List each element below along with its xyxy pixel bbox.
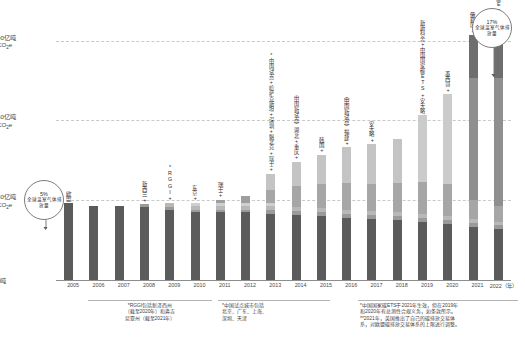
stacked-bar <box>418 115 427 280</box>
callout-right: 17% 全球温室气体排放量 <box>472 8 516 48</box>
bar-segment <box>317 216 326 280</box>
x-tick-label: 2021 <box>465 282 491 288</box>
bar-column <box>241 14 250 280</box>
bar-segment <box>317 184 326 208</box>
bar-segment <box>393 183 402 212</box>
bar-annotation: 东京+ <box>192 185 199 202</box>
bar-segment <box>443 94 452 184</box>
bar-column: *RGGI+ <box>165 14 174 280</box>
bar-segment <box>469 227 478 280</box>
footnote-rule-2 <box>218 300 330 301</box>
bar-segment <box>418 222 427 281</box>
bar-segment <box>393 139 402 183</box>
callout-right-text: 全球温室气体排放量 <box>473 25 511 36</box>
bar-segment <box>241 196 250 203</box>
bar-segment <box>191 212 200 280</box>
bar-annotation: 新西兰+ <box>141 181 148 203</box>
stacked-bar <box>140 204 149 280</box>
bar-column <box>115 14 124 280</box>
bar-segment <box>266 190 275 203</box>
bar-column: 俄勒冈+ <box>469 14 478 280</box>
bar-segment <box>292 162 301 186</box>
x-tick-label: 2020 <box>439 282 465 288</box>
bar-segment <box>216 212 225 280</box>
stacked-bar <box>266 174 275 280</box>
footnote-national-ets-line-4: 系，对欧盟碳排放交易体系的上限进行调整。 <box>360 322 522 328</box>
bar-segment <box>494 78 503 206</box>
bar-segment <box>469 78 478 200</box>
stacked-bar <box>89 206 98 280</box>
bar-annotation: （中国新试点）福建+ <box>343 93 350 146</box>
x-tick-label: 2014 <box>288 282 314 288</box>
stacked-bar <box>115 206 124 280</box>
bar-segment <box>469 200 478 219</box>
y-tick-label-0: 0吨 <box>0 277 49 284</box>
x-tick-label: 2011 <box>212 282 238 288</box>
bar-column: 瑞士+ <box>216 14 225 280</box>
callout-right-bubble: 17% 全球温室气体排放量 <box>472 8 512 48</box>
footnote-china-pilot-line-3: 深圳、天津 <box>222 316 334 322</box>
stacked-bar <box>393 139 402 280</box>
bar-segment <box>418 115 427 181</box>
stacked-bar <box>342 147 351 280</box>
x-tick-label: 2007 <box>111 282 137 288</box>
bar-segment <box>266 174 275 190</box>
stacked-bar <box>241 196 250 280</box>
stacked-bar <box>367 144 376 280</box>
bar-column: （中国新试点）福建+ <box>342 14 351 280</box>
bar-segment <box>393 220 402 280</box>
bar-segment <box>342 218 351 281</box>
bar-segment <box>342 147 351 183</box>
footnote-rggi: *RGGI包括新泽西州 （截至2020年）和弗吉 尼亚州（截至2021年） <box>88 303 212 322</box>
bar-column: 东京+ <box>191 14 200 280</box>
stacked-bar <box>494 22 503 280</box>
y-tick-label-60: 60亿吨CO2e <box>0 113 49 131</box>
x-tick-label: 2012 <box>237 282 263 288</box>
bar-segment <box>89 206 98 280</box>
axis-baseline <box>56 280 511 281</box>
x-tick-label: 2019 <box>414 282 440 288</box>
emissions-trading-chart: 欧盟新西兰+*RGGI+东京+瑞士+*中国试点+哈萨克斯坦+深圳+魁北克+瑞士+… <box>0 0 525 343</box>
plot-area: 欧盟新西兰+*RGGI+东京+瑞士+*中国试点+哈萨克斯坦+深圳+魁北克+瑞士+… <box>56 14 511 280</box>
stacked-bar <box>443 94 452 280</box>
callout-left-bubble: 5% 全球温室气体排放量 <box>24 180 64 220</box>
footnote-national-ets: *中国国家碳ETS于2021年生效，但在2019年 和2020年有总测性合规义务… <box>360 303 522 329</box>
stacked-bar <box>216 200 225 280</box>
bar-segment <box>367 144 376 184</box>
callout-left-text: 全球温室气体排放量 <box>25 197 63 208</box>
bar-annotation: 安大略+ <box>369 121 376 143</box>
footnote-rule-1 <box>88 300 212 301</box>
x-tick-label: 2022（年） <box>490 282 516 290</box>
bar-annotation: （中国新试点）湖北+重庆+ <box>293 91 300 161</box>
bar-segment <box>292 186 301 207</box>
bar-segment <box>140 207 149 280</box>
stacked-bar <box>191 203 200 280</box>
bar-column: 新西兰+ <box>140 14 149 280</box>
bar-segment <box>317 155 326 184</box>
bar-segment <box>494 206 503 222</box>
footnote-china-pilot: *中国试点城市包括 北京、广东、上海、 深圳、天津 <box>222 303 334 322</box>
callout-right-stem <box>494 48 495 76</box>
x-tick-label: 2006 <box>85 282 111 288</box>
bar-column: 安大略+ <box>367 14 376 280</box>
bar-annotation: 墨西哥+ <box>445 71 452 93</box>
x-tick-label: 2013 <box>262 282 288 288</box>
bar-segment <box>494 229 503 280</box>
footnote-rule-3 <box>358 300 518 301</box>
bar-segment <box>443 184 452 216</box>
stacked-bar <box>469 35 478 280</box>
bar-segment <box>292 215 301 280</box>
y-tick-unit: CO2e <box>0 41 49 52</box>
x-tick-label: 2005 <box>60 282 86 288</box>
y-tick-value: 90亿吨 <box>0 34 49 41</box>
bar-annotation: 瑞士+ <box>217 182 224 199</box>
bar-column: 韩国+ <box>317 14 326 280</box>
stacked-bar <box>165 203 174 280</box>
bar-column: 墨西哥+ <box>443 14 452 280</box>
stacked-bar <box>317 155 326 280</box>
x-tick-label: 2008 <box>136 282 162 288</box>
bar-column: 新斯科舍+中国国家碳ETS+安大略 <box>418 14 427 280</box>
bar-segment <box>115 206 124 280</box>
bar-column: 欧盟 <box>64 14 73 280</box>
bar-column <box>89 14 98 280</box>
